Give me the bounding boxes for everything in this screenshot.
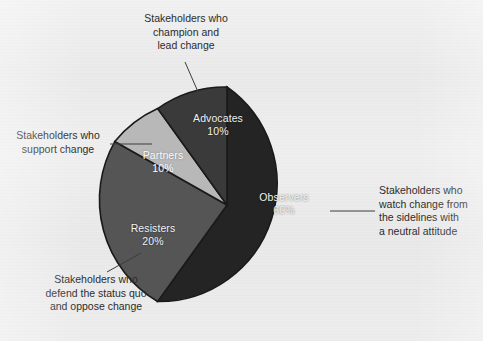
annotation-resisters-line-3: and oppose change — [22, 300, 170, 314]
annotation-partners: Stakeholders who support change — [8, 129, 108, 156]
slice-label-observers-value: 60% — [248, 204, 320, 217]
annotation-observers-line-4: a neutral attitude — [379, 225, 483, 239]
slice-label-observers-name: Observers — [248, 191, 320, 204]
annotation-advocates-line-3: lead change — [126, 39, 246, 53]
annotation-resisters-line-1: Stakeholders who — [22, 273, 170, 287]
slice-label-partners-name: Partners — [131, 149, 195, 162]
slice-label-advocates-value: 10% — [183, 125, 253, 138]
annotation-resisters: Stakeholders who defend the status quo a… — [22, 273, 170, 314]
annotation-advocates-line-2: champion and — [126, 26, 246, 40]
annotation-resisters-line-2: defend the status quo — [22, 287, 170, 301]
annotation-partners-line-2: support change — [8, 143, 108, 157]
slice-label-partners: Partners 10% — [131, 149, 195, 174]
slice-label-observers: Observers 60% — [248, 191, 320, 216]
slice-label-advocates: Advocates 10% — [183, 112, 253, 137]
slice-label-advocates-name: Advocates — [183, 112, 253, 125]
annotation-partners-line-1: Stakeholders who — [8, 129, 108, 143]
annotation-observers-line-2: watch change from — [379, 198, 483, 212]
slice-label-partners-value: 10% — [131, 162, 195, 175]
annotation-observers-line-1: Stakeholders who — [379, 184, 483, 198]
pie-chart-figure: Advocates 10% Partners 10% Resisters 20%… — [0, 0, 483, 341]
annotation-advocates: Stakeholders who champion and lead chang… — [126, 12, 246, 53]
annotation-observers-line-3: the sidelines with — [379, 211, 483, 225]
slice-label-resisters-name: Resisters — [118, 222, 188, 235]
slice-label-resisters: Resisters 20% — [118, 222, 188, 247]
slice-label-resisters-value: 20% — [118, 235, 188, 248]
annotation-observers: Stakeholders who watch change from the s… — [379, 184, 483, 238]
annotation-advocates-line-1: Stakeholders who — [126, 12, 246, 26]
